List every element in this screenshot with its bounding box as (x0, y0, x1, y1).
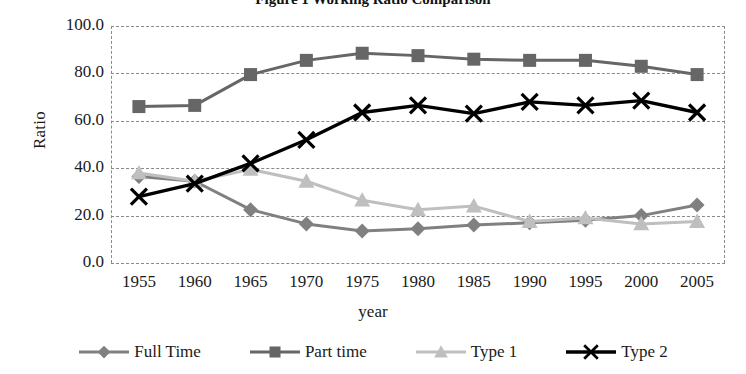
line-chart: Ratio 100.080.060.040.020.00.0 195519601… (0, 0, 746, 374)
x-tick-label: 1985 (444, 272, 504, 292)
data-point-marker (188, 99, 201, 112)
x-tick-label: 1975 (332, 272, 392, 292)
y-tick-label: 20.0 (32, 208, 104, 222)
data-point-marker (412, 49, 425, 62)
x-tick-label: 2000 (611, 272, 671, 292)
y-tick-label: 40.0 (32, 160, 104, 174)
data-point-marker (132, 100, 145, 113)
x-axis-tick-labels: 1955196019651970197519801985199019952000… (111, 272, 725, 296)
series-line (139, 101, 697, 197)
x-axis-title: year (0, 302, 746, 322)
data-point-marker (298, 132, 314, 148)
legend-item-type-1[interactable]: Type 1 (415, 342, 518, 362)
legend-marker-square-icon (249, 343, 301, 361)
legend-label: Full Time (134, 342, 201, 362)
y-axis-tick-labels: 100.080.060.040.020.00.0 (28, 0, 104, 300)
y-tick-label: 60.0 (32, 113, 104, 127)
data-point-marker (243, 202, 258, 217)
x-tick-label: 1965 (221, 272, 281, 292)
data-point-marker (269, 346, 280, 357)
legend-marker-diamond-icon (78, 343, 130, 361)
data-point-marker (300, 54, 313, 67)
data-point-marker (691, 68, 704, 81)
data-point-marker (356, 47, 369, 60)
legend-label: Type 2 (621, 342, 668, 362)
data-point-marker (467, 53, 480, 66)
legend-item-type-2[interactable]: Type 2 (565, 342, 668, 362)
data-point-marker (299, 216, 314, 231)
y-tick-label: 80.0 (32, 65, 104, 79)
data-point-marker (635, 60, 648, 73)
data-point-marker (579, 54, 592, 67)
x-tick-label: 1995 (555, 272, 615, 292)
x-tick-label: 2005 (667, 272, 727, 292)
data-point-marker (690, 197, 705, 212)
data-point-marker (411, 221, 426, 236)
legend-marker-triangle-icon (415, 343, 467, 361)
x-tick-label: 1980 (388, 272, 448, 292)
y-tick-label: 0.0 (32, 255, 104, 269)
x-tick-label: 1955 (109, 272, 169, 292)
data-point-marker (355, 224, 370, 239)
data-point-marker (466, 218, 481, 233)
x-tick-label: 1960 (165, 272, 225, 292)
data-point-marker (244, 68, 257, 81)
gridline (111, 263, 725, 264)
plot-wrapper: Ratio 100.080.060.040.020.00.0 195519601… (0, 0, 746, 300)
x-tick-label: 1990 (500, 272, 560, 292)
data-point-marker (131, 165, 147, 179)
x-tick-label: 1970 (276, 272, 336, 292)
data-point-marker (98, 346, 111, 359)
legend-item-part-time[interactable]: Part time (249, 342, 367, 362)
y-tick-label: 100.0 (32, 18, 104, 32)
series-type-2 (131, 93, 705, 205)
chart-legend: Full TimePart timeType 1Type 2 (0, 336, 746, 368)
series-layer (111, 26, 725, 263)
data-point-marker (523, 54, 536, 67)
legend-item-full-time[interactable]: Full Time (78, 342, 201, 362)
legend-marker-x-icon (565, 343, 617, 361)
legend-label: Type 1 (471, 342, 518, 362)
plot-area (111, 26, 725, 263)
series-type-1 (131, 161, 705, 230)
legend-label: Part time (305, 342, 367, 362)
